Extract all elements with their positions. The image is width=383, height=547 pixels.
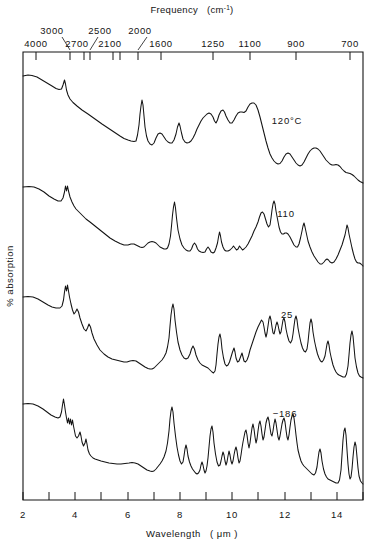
plot-frame bbox=[23, 52, 363, 500]
bottom-tick-label-10: 10 bbox=[226, 509, 238, 520]
top-tick-marks bbox=[36, 52, 350, 60]
ir-spectra-figure: Frequency (cm-1) 3000 2500 2000 4000 270… bbox=[0, 0, 383, 547]
top-tick-label-1600: 1600 bbox=[149, 38, 173, 49]
top-axis-units-open: (cm bbox=[207, 4, 224, 15]
bottom-tick-marks bbox=[23, 492, 363, 500]
bottom-tick-label-6: 6 bbox=[125, 509, 131, 520]
top-tick-label-1100: 1100 bbox=[239, 38, 262, 49]
top-tick-label-2000: 2000 bbox=[128, 25, 152, 36]
curve-label-minus186: −186 bbox=[273, 408, 298, 419]
top-tick-label-2500: 2500 bbox=[88, 25, 112, 36]
top-tick-label-2100: 2100 bbox=[98, 38, 122, 49]
top-axis-title: Frequency (cm-1) bbox=[150, 4, 233, 16]
curve-label-120c: 120°C bbox=[272, 115, 303, 126]
spectrum-curve-25 bbox=[23, 285, 363, 378]
bottom-tick-label-8: 8 bbox=[177, 509, 183, 520]
curve-label-110: 110 bbox=[277, 208, 295, 219]
bottom-tick-label-4: 4 bbox=[72, 509, 78, 520]
top-tick-label-700: 700 bbox=[341, 38, 359, 49]
bottom-tick-label-14: 14 bbox=[331, 509, 343, 520]
x-axis-title: Wavelength ( μm ) bbox=[146, 528, 238, 539]
spectra-plot: Frequency (cm-1) 3000 2500 2000 4000 270… bbox=[0, 0, 383, 547]
bottom-tick-label-2: 2 bbox=[20, 509, 26, 520]
spectrum-curve-120c bbox=[23, 75, 363, 183]
top-tick-label-3000: 3000 bbox=[40, 25, 64, 36]
top-tick-label-4000: 4000 bbox=[24, 38, 48, 49]
leader-2500 bbox=[90, 37, 98, 50]
spectrum-curve-minus186 bbox=[23, 399, 363, 484]
bottom-tick-label-12: 12 bbox=[279, 509, 291, 520]
top-tick-label-1250: 1250 bbox=[201, 38, 225, 49]
spectrum-curve-110 bbox=[23, 186, 363, 266]
curve-label-25: 25 bbox=[281, 309, 293, 320]
top-axis-title-text: Frequency bbox=[150, 4, 198, 15]
leader-2000 bbox=[138, 37, 147, 50]
top-axis-units-close: ) bbox=[230, 4, 233, 15]
x-axis-title-text: Wavelength bbox=[146, 528, 201, 539]
y-axis-label: % absorption bbox=[4, 245, 15, 306]
x-axis-units: ( μm ) bbox=[210, 528, 238, 539]
top-tick-label-900: 900 bbox=[287, 38, 305, 49]
